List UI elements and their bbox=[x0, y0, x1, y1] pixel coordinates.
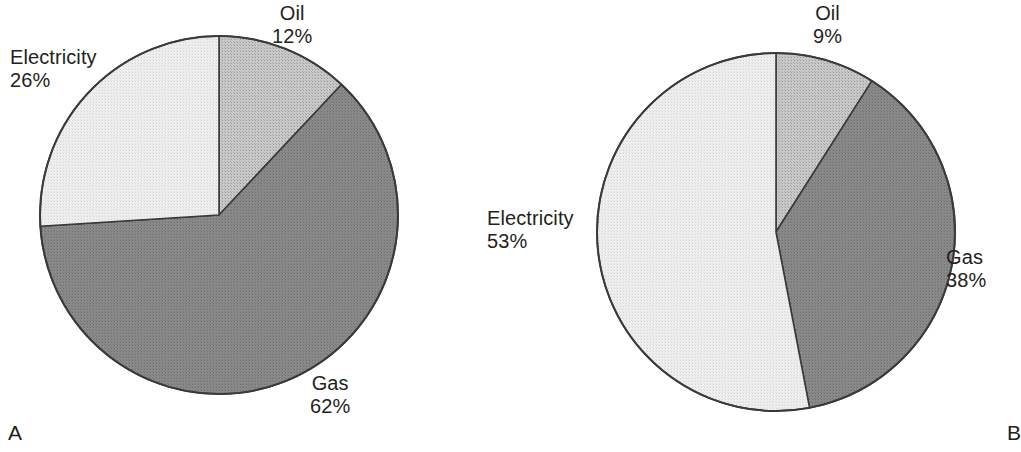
slice-label-oil-a: Oil 12% bbox=[272, 2, 312, 48]
slice-name: Electricity bbox=[487, 207, 574, 229]
slice-percent: 26% bbox=[10, 69, 97, 92]
slice-percent: 38% bbox=[946, 269, 986, 292]
panel-letter-b: B bbox=[1007, 422, 1021, 443]
slice-name: Electricity bbox=[10, 46, 97, 68]
slice-percent: 12% bbox=[272, 25, 312, 48]
panel-a: Electricity 26% Oil 12% Gas 62% A bbox=[0, 0, 509, 452]
slice-percent: 9% bbox=[813, 25, 842, 48]
slice-name: Oil bbox=[280, 2, 305, 24]
slice-percent: 53% bbox=[487, 230, 574, 253]
pie-chart-b bbox=[509, 0, 1018, 452]
slice-name: Oil bbox=[815, 2, 840, 24]
slice-label-electricity-b: Electricity 53% bbox=[487, 207, 574, 253]
slice-label-gas-a: Gas 62% bbox=[310, 372, 350, 418]
slice-label-gas-b: Gas 38% bbox=[946, 246, 986, 292]
slice-label-oil-b: Oil 9% bbox=[813, 2, 842, 48]
slice-label-electricity-a: Electricity 26% bbox=[10, 46, 97, 92]
slice-percent: 62% bbox=[310, 395, 350, 418]
panel-b: Electricity 53% Oil 9% Gas 38% B bbox=[509, 0, 1018, 452]
slice-name: Gas bbox=[946, 246, 983, 268]
panel-letter-a: A bbox=[8, 422, 22, 443]
slice-name: Gas bbox=[312, 372, 349, 394]
